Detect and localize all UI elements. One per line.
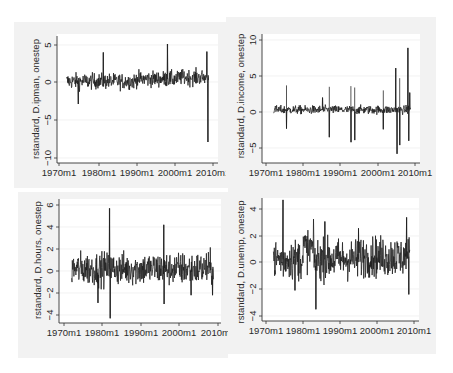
y-tick-label: −4	[44, 310, 55, 321]
y-tick-label: 2	[247, 233, 258, 238]
x-tick-label: 1980m1	[82, 167, 116, 178]
x-tick-label: 2000m1	[162, 327, 196, 338]
x-tick-label: 1970m1	[47, 327, 81, 338]
y-tick-label: −2	[44, 288, 55, 299]
x-tick-label: 2010m1	[398, 167, 432, 178]
x-tick-label: 1980m1	[286, 325, 320, 336]
x-tick-label: 2000m1	[361, 167, 395, 178]
y-tick-label: 5	[42, 42, 53, 47]
x-tick-label: 1980m1	[85, 327, 119, 338]
x-tick-label: 2010m1	[196, 167, 230, 178]
y-axis-title: rstandard, D.unemp, onestep	[235, 200, 246, 323]
panel-hours: 6 4 2 0 −2 −4 1970m1 1980m1 1990m1 2000m…	[18, 192, 235, 358]
y-tick-label: 6	[44, 202, 55, 207]
y-tick-label: 0	[42, 79, 53, 84]
y-tick-label: 5	[247, 73, 258, 78]
y-tick-label: 0	[247, 109, 258, 114]
x-tick-label: 2010m1	[397, 325, 431, 336]
y-tick-label: 0	[247, 259, 258, 264]
x-tick-label: 1990m1	[124, 327, 158, 338]
plot-area	[57, 34, 218, 163]
y-tick-label: −4	[247, 311, 258, 322]
y-tick-label: 10	[247, 35, 258, 46]
y-tick-label: −5	[42, 115, 53, 126]
x-tick-label: 1970m1	[249, 167, 283, 178]
y-tick-label: 4	[247, 206, 258, 211]
x-tick-label: 1990m1	[323, 167, 357, 178]
x-tick-label: 2000m1	[360, 325, 394, 336]
y-tick-label: −5	[247, 143, 258, 154]
figure-canvas: 5 0 −5 −10 1970m1 1980m1 1990m1 2000m1 2…	[0, 0, 453, 373]
x-tick-label: 1970m1	[42, 167, 76, 178]
y-tick-label: 4	[44, 224, 55, 229]
panel-unemp: 4 2 0 −2 −4 1970m1 1980m1 1990m1 2000m1 …	[228, 188, 436, 354]
y-axis-title: rstandard, D.hours, onestep	[32, 201, 43, 319]
panel-ipman: 5 0 −5 −10 1970m1 1980m1 1990m1 2000m1 2…	[14, 22, 230, 188]
y-axis-title: rstandard, D.income, onestep	[235, 34, 246, 159]
x-tick-label: 1990m1	[323, 325, 357, 336]
x-tick-label: 1980m1	[286, 167, 320, 178]
y-axis-title: rstandard, D.ipman, onestep	[30, 39, 41, 159]
y-tick-label: −2	[247, 284, 258, 295]
x-tick-label: 1990m1	[120, 167, 154, 178]
y-tick-label: 0	[44, 268, 55, 273]
y-tick-label: 2	[44, 246, 55, 251]
y-tick-label: −10	[42, 150, 53, 166]
x-tick-label: 2000m1	[158, 167, 192, 178]
x-tick-label: 1970m1	[249, 325, 283, 336]
panel-income: 10 5 0 −5 1970m1 1980m1 1990m1 2000m1 20…	[226, 17, 436, 188]
